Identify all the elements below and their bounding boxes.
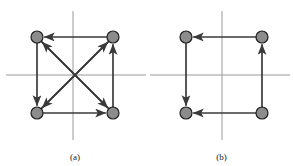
edge-diagonal-br-tl (42, 42, 109, 109)
panel-a: (a) (0, 0, 150, 166)
node-bottom-left (31, 107, 43, 119)
node-bottom-right (107, 107, 119, 119)
node-bottom-left (180, 107, 192, 119)
caption-a: (a) (0, 152, 150, 162)
node-top-right (256, 31, 268, 43)
node-bottom-right (256, 107, 268, 119)
caption-b: (b) (150, 152, 293, 162)
diagram-b (150, 0, 293, 166)
node-top-left (180, 31, 192, 43)
edge-diagonal-tr-bl (42, 41, 109, 108)
diagram-a (0, 0, 150, 166)
axes (150, 11, 290, 140)
node-top-right (107, 31, 119, 43)
panel-b: (b) (150, 0, 293, 166)
figure-container: (a) (b) (0, 0, 293, 166)
node-top-left (31, 31, 43, 43)
